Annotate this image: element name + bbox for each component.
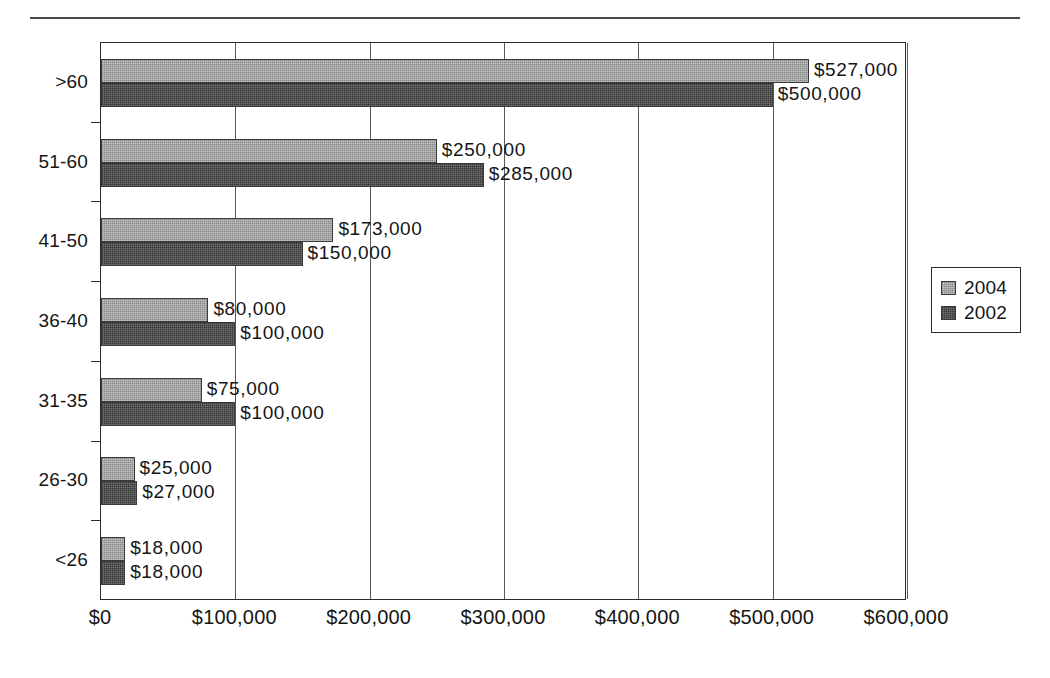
y-axis-label-36-40: 36-40 bbox=[38, 310, 88, 332]
bar-2004-60: $527,000 bbox=[101, 59, 809, 83]
bar-2004-41-50: $173,000 bbox=[101, 218, 333, 242]
bar-value-label: $100,000 bbox=[240, 323, 324, 342]
bar-value-label: $150,000 bbox=[308, 243, 392, 262]
bar-value-label: $527,000 bbox=[814, 60, 898, 79]
bar-value-label: $27,000 bbox=[142, 482, 215, 501]
gridline-600000 bbox=[907, 43, 908, 599]
bar-value-label: $25,000 bbox=[140, 458, 213, 477]
bar-2002-36-40: $100,000 bbox=[101, 322, 235, 346]
bar-2002-31-35: $100,000 bbox=[101, 402, 235, 426]
bar-group-60-2002: $500,000 bbox=[101, 83, 905, 107]
bar-chart: $527,000$500,000$250,000$285,000$173,000… bbox=[0, 0, 1050, 678]
legend-label-2002: 2002 bbox=[964, 303, 1007, 322]
bar-2002-60: $500,000 bbox=[101, 83, 773, 107]
bar-2002-26: $18,000 bbox=[101, 561, 125, 585]
legend-label-2004: 2004 bbox=[964, 278, 1007, 297]
bar-group-31-35-2004: $75,000 bbox=[101, 378, 905, 402]
y-axis-label-31-35: 31-35 bbox=[38, 390, 88, 412]
legend-swatch-2002-icon bbox=[941, 306, 956, 320]
bar-2004-26: $18,000 bbox=[101, 537, 125, 561]
bar-group-41-50-2004: $173,000 bbox=[101, 218, 905, 242]
bar-value-label: $285,000 bbox=[489, 164, 573, 183]
bar-value-label: $250,000 bbox=[442, 140, 526, 159]
bar-group-51-60-2004: $250,000 bbox=[101, 139, 905, 163]
bar-group-26-30-2004: $25,000 bbox=[101, 457, 905, 481]
y-axis-label-60: >60 bbox=[55, 71, 88, 93]
bar-2004-51-60: $250,000 bbox=[101, 139, 437, 163]
bar-2002-51-60: $285,000 bbox=[101, 163, 484, 187]
bar-group-26-30-2002: $27,000 bbox=[101, 481, 905, 505]
bar-2004-36-40: $80,000 bbox=[101, 298, 208, 322]
bar-value-label: $80,000 bbox=[213, 299, 286, 318]
plot-area: $527,000$500,000$250,000$285,000$173,000… bbox=[100, 42, 906, 600]
y-axis-tick bbox=[91, 281, 100, 282]
y-axis-label-51-60: 51-60 bbox=[38, 151, 88, 173]
bar-2002-41-50: $150,000 bbox=[101, 242, 303, 266]
x-axis-label-200000: $200,000 bbox=[326, 606, 411, 629]
bar-group-41-50-2002: $150,000 bbox=[101, 242, 905, 266]
x-axis-label-300000: $300,000 bbox=[460, 606, 545, 629]
bar-value-label: $75,000 bbox=[207, 379, 280, 398]
bar-group-26-2002: $18,000 bbox=[101, 561, 905, 585]
y-axis-label-26: <26 bbox=[55, 549, 88, 571]
bar-value-label: $173,000 bbox=[338, 219, 422, 238]
bar-group-31-35-2002: $100,000 bbox=[101, 402, 905, 426]
bar-group-36-40-2002: $100,000 bbox=[101, 322, 905, 346]
bar-value-label: $18,000 bbox=[130, 562, 203, 581]
legend-item-2002: 2002 bbox=[941, 300, 1020, 325]
x-axis-label-100000: $100,000 bbox=[192, 606, 277, 629]
bar-value-label: $100,000 bbox=[240, 403, 324, 422]
y-axis-tick bbox=[91, 122, 100, 123]
legend-swatch-2004-icon bbox=[941, 281, 956, 295]
x-axis-label-600000: $600,000 bbox=[863, 606, 948, 629]
bar-group-51-60-2002: $285,000 bbox=[101, 163, 905, 187]
bar-group-60-2004: $527,000 bbox=[101, 59, 905, 83]
y-axis-tick bbox=[91, 201, 100, 202]
y-axis-category-labels: >6051-6041-5036-4031-3526-30<26 bbox=[0, 42, 100, 600]
bar-2002-26-30: $27,000 bbox=[101, 481, 137, 505]
bar-group-26-2004: $18,000 bbox=[101, 537, 905, 561]
chart-legend: 2004 2002 bbox=[931, 267, 1021, 333]
x-axis-label-400000: $400,000 bbox=[595, 606, 680, 629]
legend-item-2004: 2004 bbox=[941, 275, 1020, 300]
x-axis-tick-labels: $0$100,000$200,000$300,000$400,000$500,0… bbox=[100, 606, 906, 640]
x-axis-label-0: $0 bbox=[89, 606, 112, 629]
y-axis-tick bbox=[91, 441, 100, 442]
bar-group-36-40-2004: $80,000 bbox=[101, 298, 905, 322]
x-axis-label-500000: $500,000 bbox=[729, 606, 814, 629]
bar-value-label: $500,000 bbox=[778, 84, 862, 103]
y-axis-tick bbox=[91, 361, 100, 362]
bar-value-label: $18,000 bbox=[130, 538, 203, 557]
y-axis-label-26-30: 26-30 bbox=[38, 469, 88, 491]
bar-2004-26-30: $25,000 bbox=[101, 457, 135, 481]
y-axis-label-41-50: 41-50 bbox=[38, 230, 88, 252]
bar-2004-31-35: $75,000 bbox=[101, 378, 202, 402]
y-axis-tick bbox=[91, 520, 100, 521]
